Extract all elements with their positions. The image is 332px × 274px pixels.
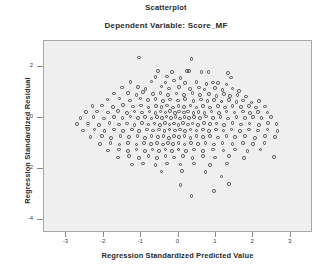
data-point: [118, 97, 122, 101]
data-point: [106, 98, 110, 102]
data-point: [266, 121, 270, 125]
data-point: [165, 162, 169, 166]
data-point: [160, 85, 164, 89]
data-point: [129, 115, 133, 119]
data-point: [177, 85, 181, 89]
data-point: [201, 154, 205, 158]
data-point: [125, 122, 129, 126]
data-point: [208, 106, 212, 110]
data-point: [173, 129, 177, 133]
data-point: [216, 104, 220, 108]
data-point: [269, 115, 273, 119]
data-point: [103, 129, 107, 133]
data-point: [190, 57, 194, 61]
data-point: [174, 115, 178, 119]
data-point: [256, 110, 260, 114]
data-point: [257, 123, 261, 127]
data-point: [231, 104, 235, 108]
data-point: [159, 110, 163, 114]
data-point: [192, 148, 196, 152]
data-point: [92, 115, 96, 119]
data-point: [195, 80, 199, 84]
data-point: [207, 70, 211, 74]
data-point: [161, 143, 165, 147]
data-point: [156, 69, 160, 73]
data-point: [79, 116, 83, 120]
data-point: [139, 97, 143, 101]
data-point: [213, 86, 217, 90]
data-point: [222, 149, 226, 153]
data-point: [276, 129, 280, 133]
data-point: [171, 142, 175, 146]
data-point: [147, 154, 151, 158]
plot-area: [43, 40, 312, 232]
data-point: [186, 123, 190, 127]
data-point: [243, 134, 247, 138]
data-point: [260, 116, 264, 120]
data-point: [159, 91, 163, 95]
data-point: [241, 141, 245, 145]
data-point: [95, 110, 99, 114]
data-point: [162, 134, 166, 138]
chart-title: Scatterplot: [0, 3, 332, 12]
data-point: [263, 105, 267, 109]
data-point: [157, 128, 161, 132]
data-point: [204, 115, 208, 119]
data-point: [183, 81, 187, 85]
data-point: [148, 110, 152, 114]
data-point: [263, 134, 267, 138]
data-point: [188, 87, 192, 91]
data-point: [154, 163, 158, 167]
data-point: [141, 162, 145, 166]
data-point: [98, 142, 102, 146]
data-point: [147, 123, 151, 127]
data-point: [151, 129, 155, 133]
data-point: [157, 149, 161, 153]
data-point: [163, 129, 167, 133]
data-point: [207, 129, 211, 133]
data-point: [179, 76, 183, 80]
x-axis-tick: [65, 232, 66, 237]
data-point: [130, 128, 134, 132]
data-point: [100, 104, 104, 108]
data-point: [170, 70, 174, 74]
data-point: [100, 134, 104, 138]
data-point: [177, 141, 181, 145]
data-point: [259, 148, 263, 152]
data-point: [131, 105, 135, 109]
data-point: [125, 111, 129, 115]
data-point: [191, 91, 195, 95]
data-point: [172, 79, 176, 83]
data-point: [112, 128, 116, 132]
data-point: [201, 128, 205, 132]
data-point: [183, 97, 187, 101]
data-point: [177, 110, 181, 114]
data-point: [189, 136, 193, 140]
data-point: [177, 135, 181, 139]
data-point: [129, 80, 133, 84]
data-point: [156, 135, 160, 139]
data-point: [187, 116, 191, 120]
data-point: [207, 92, 211, 96]
data-point: [246, 149, 250, 153]
data-point: [203, 88, 207, 92]
data-point: [187, 69, 191, 73]
data-point: [177, 123, 181, 127]
data-point: [140, 111, 144, 115]
data-point: [121, 129, 125, 133]
data-point: [212, 189, 216, 193]
data-point: [150, 80, 154, 84]
data-point: [147, 106, 151, 110]
data-point: [235, 100, 239, 104]
data-point: [208, 122, 212, 126]
data-point: [231, 87, 235, 91]
data-point: [133, 110, 137, 114]
data-point: [81, 129, 85, 133]
data-point: [166, 141, 170, 145]
data-point: [189, 104, 193, 108]
x-axis-tick-label: -2: [91, 238, 115, 244]
data-point: [135, 148, 139, 152]
data-point: [149, 142, 153, 146]
data-point: [227, 98, 231, 102]
data-point: [135, 143, 139, 147]
